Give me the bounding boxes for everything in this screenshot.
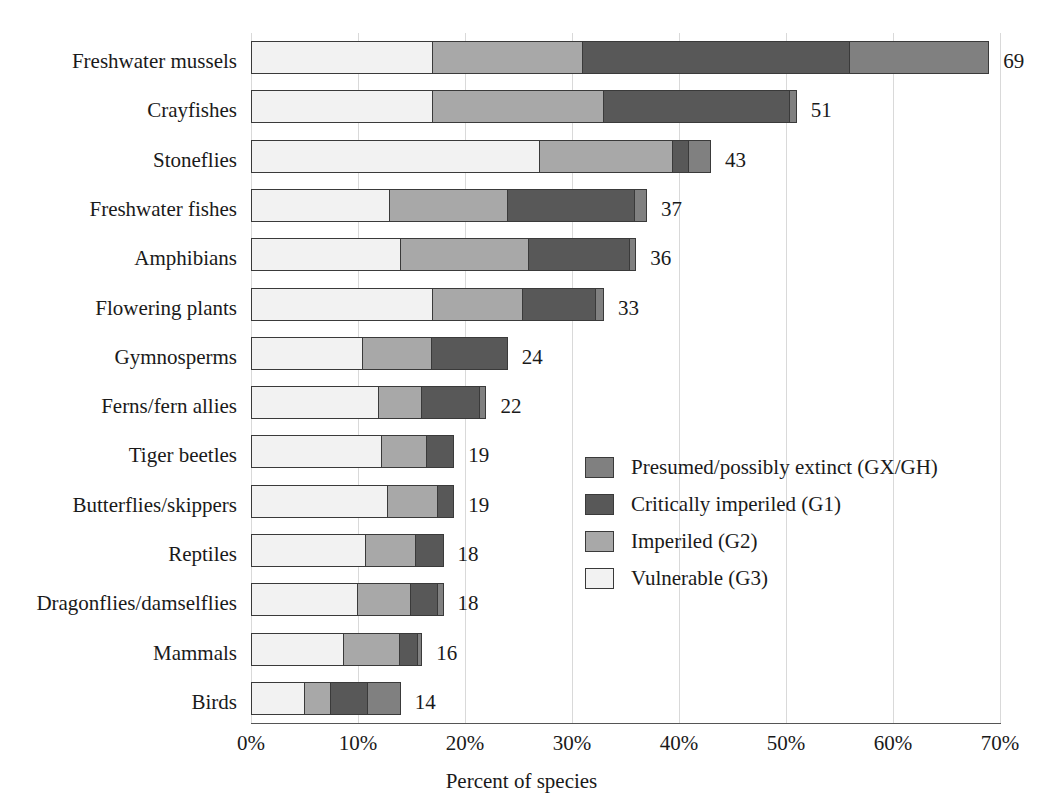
bar-segment [433, 289, 523, 320]
category-label: Dragonflies/damselflies [36, 593, 237, 614]
bar-segment [368, 683, 400, 714]
bar-value-label: 43 [725, 150, 746, 171]
bar-value-label: 51 [811, 100, 832, 121]
bar-segment [689, 141, 710, 172]
bar-segment [604, 91, 791, 122]
x-tick-label: 10% [339, 733, 378, 754]
bar-segment [418, 634, 421, 665]
category-label: Amphibians [134, 248, 237, 269]
bar-segment [331, 683, 368, 714]
category-label: Tiger beetles [129, 445, 237, 466]
bar-value-label: 18 [458, 544, 479, 565]
bar-segment [433, 91, 604, 122]
bar-row: Ferns/fern allies22 [251, 378, 1000, 427]
bar-row: Crayfishes51 [251, 82, 1000, 131]
bar-row: Freshwater mussels69 [251, 33, 1000, 82]
bar-value-label: 69 [1003, 51, 1024, 72]
bar-row: Stoneflies43 [251, 132, 1000, 181]
category-label: Gymnosperms [115, 347, 238, 368]
bar-segment [529, 239, 630, 270]
legend-label: Vulnerable (G3) [631, 568, 768, 589]
bar-segment [508, 190, 636, 221]
bar [251, 238, 636, 271]
bar [251, 140, 711, 173]
category-label: Ferns/fern allies [101, 396, 237, 417]
bar [251, 288, 604, 321]
bar-row: Amphibians36 [251, 230, 1000, 279]
legend-item: Vulnerable (G3) [585, 560, 938, 597]
x-axis-line [251, 723, 1001, 724]
legend-item: Presumed/possibly extinct (GX/GH) [585, 449, 938, 486]
bar-row: Birds14 [251, 674, 1000, 723]
legend-item: Imperiled (G2) [585, 523, 938, 560]
bar [251, 189, 647, 222]
bar-value-label: 33 [618, 298, 639, 319]
bar-segment [252, 683, 305, 714]
bar [251, 386, 486, 419]
x-tick-label: 50% [767, 733, 806, 754]
bar-segment [630, 239, 635, 270]
legend-swatch-icon [585, 568, 614, 589]
bar [251, 633, 422, 666]
x-tick-label: 60% [874, 733, 913, 754]
bar [251, 682, 401, 715]
bar-segment [382, 436, 427, 467]
bar-segment [523, 289, 595, 320]
legend-swatch-icon [585, 457, 614, 478]
bar-segment [596, 289, 603, 320]
bar-segment [252, 141, 540, 172]
x-tick-label: 30% [553, 733, 592, 754]
legend-item: Critically imperiled (G1) [585, 486, 938, 523]
legend-label: Critically imperiled (G1) [631, 494, 841, 515]
bar-segment [358, 584, 411, 615]
bar-segment [400, 634, 418, 665]
legend-label: Imperiled (G2) [631, 531, 758, 552]
bar-segment [438, 486, 453, 517]
bar-value-label: 14 [415, 692, 436, 713]
bar-segment [252, 338, 363, 369]
bar-value-label: 22 [500, 396, 521, 417]
category-label: Stoneflies [153, 150, 237, 171]
bar [251, 435, 454, 468]
bar-segment [379, 387, 421, 418]
bar-segment [363, 338, 432, 369]
bar-segment [583, 42, 850, 73]
category-label: Butterflies/skippers [73, 495, 237, 516]
x-tick-label: 20% [446, 733, 485, 754]
bar-value-label: 36 [650, 248, 671, 269]
category-label: Flowering plants [95, 298, 237, 319]
bar-value-label: 19 [468, 445, 489, 466]
bar-segment [252, 584, 358, 615]
bar-segment [433, 42, 582, 73]
category-label: Freshwater mussels [72, 51, 237, 72]
bar-row: Freshwater fishes37 [251, 181, 1000, 230]
bar-segment [427, 436, 453, 467]
bar-segment [401, 239, 529, 270]
x-tick-label: 70% [981, 733, 1020, 754]
bar-row: Flowering plants33 [251, 279, 1000, 328]
category-label: Crayfishes [147, 100, 237, 121]
bar-segment [252, 486, 388, 517]
bar-segment [390, 190, 507, 221]
bar-value-label: 18 [458, 593, 479, 614]
bar-segment [432, 338, 506, 369]
bar [251, 485, 454, 518]
legend-swatch-icon [585, 531, 614, 552]
category-label: Reptiles [168, 544, 237, 565]
legend-label: Presumed/possibly extinct (GX/GH) [631, 457, 938, 478]
bar [251, 534, 444, 567]
bar-segment [252, 535, 366, 566]
bar-segment [252, 190, 390, 221]
category-label: Mammals [153, 643, 237, 664]
bar-segment [388, 486, 439, 517]
bar-segment [850, 42, 989, 73]
bar-segment [366, 535, 416, 566]
bar-segment [635, 190, 646, 221]
bar-value-label: 37 [661, 199, 682, 220]
bar-segment [252, 289, 433, 320]
legend-swatch-icon [585, 494, 614, 515]
gridline [1000, 33, 1001, 723]
bar [251, 583, 444, 616]
bar-segment [252, 42, 433, 73]
bar-segment [480, 387, 485, 418]
